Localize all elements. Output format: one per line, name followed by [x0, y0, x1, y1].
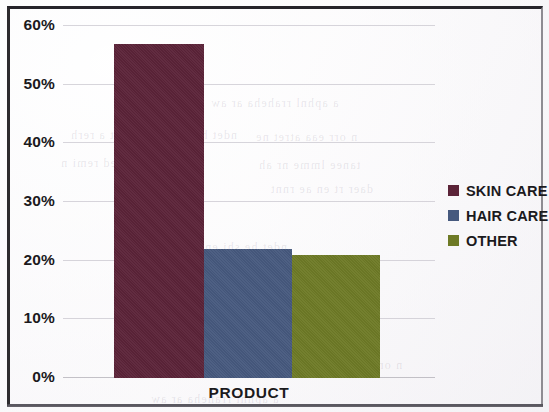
y-tick-label: 10% — [23, 309, 55, 327]
bar-other — [292, 255, 380, 378]
legend-item-other[interactable]: OTHER — [448, 228, 548, 253]
legend-swatch-icon — [448, 235, 459, 246]
bar-hair-care — [204, 249, 292, 378]
bar-chart-figure: a aphnl rraheha ar aw ndet he shi en ate… — [0, 0, 549, 412]
legend-item-skin-care[interactable]: SKIN CARE — [448, 178, 548, 203]
bar-group — [114, 25, 380, 378]
legend-label: SKIN CARE — [466, 183, 548, 199]
chart-border-bottom-rule — [7, 404, 543, 407]
legend-item-hair-care[interactable]: HAIR CARE — [448, 203, 548, 228]
y-tick-label: 40% — [23, 133, 55, 151]
y-tick-label: 30% — [23, 192, 55, 210]
chart-legend: SKIN CARE HAIR CARE OTHER — [448, 178, 548, 253]
legend-label: OTHER — [466, 233, 518, 249]
x-axis-title: PRODUCT — [63, 384, 435, 402]
y-axis: 60% 50% 40% 30% 20% 10% 0% — [0, 0, 63, 412]
legend-label: HAIR CARE — [466, 208, 548, 224]
legend-swatch-icon — [448, 210, 459, 221]
plot-area — [63, 25, 435, 378]
legend-swatch-icon — [448, 185, 459, 196]
bar-skin-care — [114, 44, 204, 378]
y-tick-label: 60% — [23, 16, 55, 34]
y-tick-label: 20% — [23, 251, 55, 269]
y-tick-label: 0% — [32, 368, 55, 386]
y-tick-label: 50% — [23, 75, 55, 93]
